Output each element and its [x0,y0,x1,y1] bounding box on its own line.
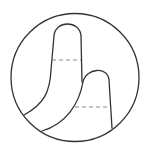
diagram [0,0,150,156]
lobe-1 [24,24,82,115]
lobe-2 [42,70,112,131]
outer-circle [11,14,139,142]
